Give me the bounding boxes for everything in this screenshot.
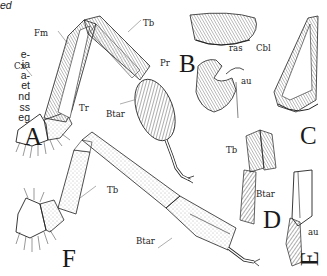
label-pr: Pr: [160, 59, 170, 68]
label-fm: Fm: [34, 29, 48, 38]
panel-label-c: C: [300, 123, 317, 148]
panel-label-f: F: [62, 246, 76, 271]
label-btar-a: Btar: [106, 110, 125, 119]
panel-label-a: A: [24, 124, 42, 149]
label-au-e: au: [308, 228, 319, 237]
panel-label-e: E: [297, 251, 322, 266]
label-cbl: Cbl: [256, 44, 271, 53]
panel-b-drawing: [190, 13, 256, 118]
label-au-b: au: [241, 77, 252, 86]
label-btar-f: Btar: [136, 237, 155, 246]
panel-label-b: B: [179, 51, 196, 76]
leg-illustrations: [0, 0, 327, 276]
label-tb-f: Tb: [107, 186, 118, 195]
label-btar-d: Btar: [256, 190, 275, 199]
figure-insect-legs: ed e- ia a- et nd ss eg al of: [0, 0, 327, 276]
label-tb-a: Tb: [143, 19, 154, 28]
panel-c-drawing: [274, 16, 318, 112]
label-tb-d: Tb: [226, 146, 237, 155]
panel-label-d: D: [263, 207, 281, 232]
label-cx: Cx: [14, 62, 25, 71]
label-tr: Tr: [79, 104, 89, 113]
label-ras: ras: [229, 44, 243, 53]
